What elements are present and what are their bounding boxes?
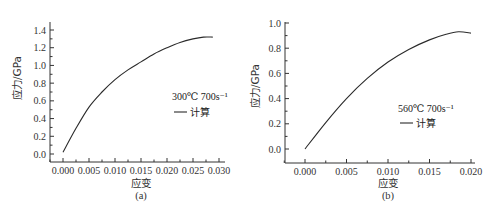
y-tick-label: 1.0	[269, 18, 282, 29]
legend-title-b: 560℃ 700s⁻¹	[398, 103, 454, 114]
legend-entry-a: 计算	[190, 106, 210, 118]
y-tick-label: 0.2	[34, 131, 47, 142]
y-tick-label: 1.0	[34, 60, 47, 71]
x-tick-label: 0.005	[335, 166, 358, 177]
legend-entry-b: 计算	[416, 117, 436, 129]
y-tick-label: 0.8	[34, 78, 47, 89]
y-tick-label: 0.8	[269, 43, 282, 54]
x-axis-label-a: 应变	[131, 177, 152, 189]
y-tick-label: 0.2	[269, 118, 282, 129]
chart-panel-a: 0.0000.0050.0100.0150.0200.0250.0300.00.…	[11, 22, 230, 202]
y-tick-label: 1.2	[34, 42, 47, 53]
x-tick-label: 0.005	[78, 165, 101, 176]
y-axis-label-b: 应力/GPa	[249, 64, 261, 108]
x-tick-label: 0.010	[104, 165, 127, 176]
y-tick-label: 1.4	[34, 25, 47, 36]
chart-panel-b: 0.0000.0050.0100.0150.0200.00.20.40.60.8…	[249, 18, 482, 203]
x-tick-label: 0.020	[460, 166, 483, 177]
x-tick-label: 0.015	[130, 165, 153, 176]
y-tick-label: 0.4	[34, 113, 47, 124]
y-tick-label: 0.0	[269, 144, 282, 155]
y-tick-label: 0.6	[34, 95, 47, 106]
x-tick-label: 0.010	[377, 166, 400, 177]
x-tick-label: 0.030	[208, 165, 231, 176]
y-tick-label: 0.0	[34, 149, 47, 160]
axes-b: 0.0000.0050.0100.0150.0200.00.20.40.60.8…	[269, 18, 483, 178]
y-axis-label-a: 应力/GPa	[11, 56, 23, 100]
y-tick-label: 0.4	[269, 93, 282, 104]
figure: 0.0000.0050.0100.0150.0200.0250.0300.00.…	[0, 0, 496, 216]
panel-label-a: (a)	[135, 190, 147, 202]
panel-label-b: (b)	[382, 190, 395, 202]
x-tick-label: 0.000	[294, 166, 317, 177]
legend-title-a: 300℃ 700s⁻¹	[172, 91, 228, 102]
x-tick-label: 0.000	[52, 165, 75, 176]
x-tick-label: 0.015	[418, 166, 441, 177]
stress-strain-curve-b	[305, 32, 471, 149]
y-tick-label: 0.6	[269, 68, 282, 79]
x-axis-label-b: 应变	[378, 177, 399, 189]
x-tick-label: 0.025	[182, 165, 205, 176]
x-tick-label: 0.020	[156, 165, 179, 176]
